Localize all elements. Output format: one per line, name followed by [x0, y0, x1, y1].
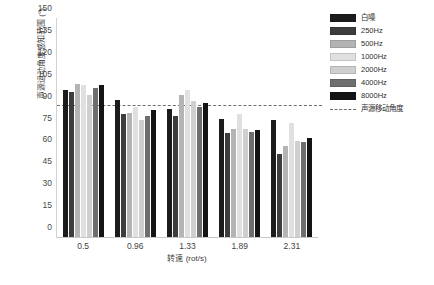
- legend-label: 2000Hz: [361, 66, 387, 74]
- y-axis-tick-label: 45: [43, 156, 52, 166]
- bar-group: 1.89: [219, 18, 261, 237]
- bar: [173, 116, 178, 237]
- bar: [203, 103, 208, 237]
- bar: [225, 133, 230, 237]
- y-axis-tick-label: 0: [47, 222, 52, 232]
- bar: [295, 141, 300, 237]
- legend-item-reference-line[interactable]: 声源移动角度: [330, 103, 430, 115]
- bar: [197, 107, 202, 237]
- bar: [133, 107, 138, 237]
- bar-group: 0.96: [114, 18, 156, 237]
- bar-groups: 0.50.961.331.892.31: [57, 18, 318, 237]
- legend-item[interactable]: 白噪: [330, 12, 430, 24]
- bar-group: 2.31: [271, 18, 313, 237]
- bar: [151, 110, 156, 237]
- x-axis-title: 转速 (rot/s): [56, 252, 318, 263]
- bar: [219, 119, 224, 237]
- bar: [307, 138, 312, 237]
- legend-label: 4000Hz: [361, 79, 387, 87]
- y-axis-tick-label: 90: [43, 91, 52, 101]
- legend-swatch-icon: [330, 79, 356, 87]
- bar: [237, 114, 242, 237]
- bar: [93, 88, 98, 237]
- y-axis-tick-label: 105: [38, 69, 52, 79]
- legend-swatch-icon: [330, 66, 356, 74]
- y-axis-tick-label: 120: [38, 47, 52, 57]
- legend-swatch-icon: [330, 40, 356, 48]
- bar: [115, 100, 120, 237]
- legend-label: 250Hz: [361, 27, 383, 35]
- plot-area: 0153045607590105120135150 0.50.961.331.8…: [56, 18, 318, 238]
- plot-inner: 0153045607590105120135150 0.50.961.331.8…: [57, 18, 318, 237]
- bar: [191, 101, 196, 237]
- bar: [249, 132, 254, 237]
- bar: [289, 123, 294, 237]
- legend-item[interactable]: 250Hz: [330, 25, 430, 37]
- bar: [301, 142, 306, 237]
- bar: [185, 90, 190, 237]
- legend-swatch-icon: [330, 92, 356, 100]
- y-axis-tick-label: 150: [38, 3, 52, 13]
- bar: [121, 114, 126, 237]
- x-axis-tick-label: 1.89: [231, 241, 248, 251]
- legend-swatch-icon: [330, 53, 356, 61]
- bar: [271, 120, 276, 237]
- legend-label: 8000Hz: [361, 92, 387, 100]
- y-axis-tick-label: 60: [43, 134, 52, 144]
- legend-item[interactable]: 500Hz: [330, 38, 430, 50]
- y-axis-tick-label: 15: [43, 200, 52, 210]
- bar-group: 0.5: [62, 18, 104, 237]
- y-axis-tick-label: 75: [43, 113, 52, 123]
- legend-label: 1000Hz: [361, 53, 387, 61]
- legend-label: 500Hz: [361, 40, 383, 48]
- x-axis-tick-label: 2.31: [284, 241, 301, 251]
- chart-legend: 白噪250Hz500Hz1000Hz2000Hz4000Hz8000Hz声源移动…: [330, 12, 430, 116]
- y-axis-tick-label: 30: [43, 178, 52, 188]
- bar: [277, 154, 282, 237]
- bar-chart-figure: 声源运动角度感知范围 (°) 0153045607590105120135150…: [0, 0, 434, 285]
- y-axis-tick-label: 135: [38, 25, 52, 35]
- legend-swatch-icon: [330, 27, 356, 35]
- legend-item[interactable]: 2000Hz: [330, 64, 430, 76]
- bar-group: 1.33: [166, 18, 208, 237]
- legend-swatch-icon: [330, 14, 356, 22]
- bar: [255, 130, 260, 237]
- legend-item[interactable]: 8000Hz: [330, 90, 430, 102]
- bar: [99, 85, 104, 237]
- bar: [167, 109, 172, 237]
- bar: [81, 85, 86, 237]
- legend-label: 白噪: [361, 14, 375, 22]
- bar: [231, 129, 236, 237]
- bar: [243, 129, 248, 237]
- bar: [127, 113, 132, 237]
- bar: [179, 95, 184, 237]
- legend-item[interactable]: 4000Hz: [330, 77, 430, 89]
- x-axis-tick-label: 0.5: [77, 241, 89, 251]
- bar: [87, 95, 92, 237]
- bar: [69, 92, 74, 237]
- bar: [283, 146, 288, 237]
- legend-label: 声源移动角度: [361, 105, 403, 113]
- legend-item[interactable]: 1000Hz: [330, 51, 430, 63]
- x-axis-tick-label: 0.96: [127, 241, 144, 251]
- bar: [63, 90, 68, 237]
- bar: [75, 84, 80, 237]
- dashed-line-icon: [330, 109, 356, 110]
- bar: [145, 116, 150, 237]
- x-axis-tick-label: 1.33: [179, 241, 196, 251]
- bar: [139, 120, 144, 237]
